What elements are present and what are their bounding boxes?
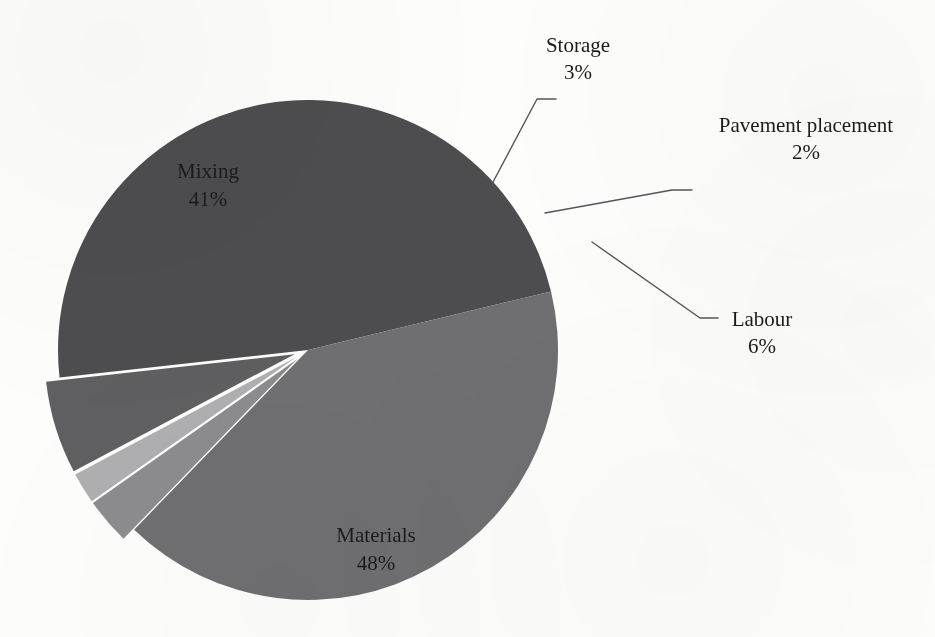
callout-label-storage-percent: 3% xyxy=(564,60,592,84)
slice-label-mixing-percent: 41% xyxy=(189,187,228,211)
leader-line-pavement-placement xyxy=(545,190,692,213)
slice-label-materials-percent: 48% xyxy=(357,551,396,575)
pie-chart-canvas: Mixing 41% Materials 48% Storage 3% Pave… xyxy=(0,0,935,637)
leader-line-labour xyxy=(592,242,718,318)
callout-label-pavement-placement-name: Pavement placement xyxy=(719,113,894,137)
callout-label-labour-percent: 6% xyxy=(748,334,776,358)
pie-slices-group xyxy=(46,100,558,600)
callout-label-pavement-placement-percent: 2% xyxy=(792,140,820,164)
callout-label-labour-name: Labour xyxy=(732,307,793,331)
slice-label-mixing-name: Mixing xyxy=(177,159,239,183)
pie-chart-figure: Mixing 41% Materials 48% Storage 3% Pave… xyxy=(0,0,935,637)
callout-labels-group: Storage 3% Pavement placement 2% Labour … xyxy=(546,33,893,358)
leader-line-storage xyxy=(492,99,556,184)
callout-label-storage-name: Storage xyxy=(546,33,610,57)
slice-label-materials-name: Materials xyxy=(336,523,415,547)
